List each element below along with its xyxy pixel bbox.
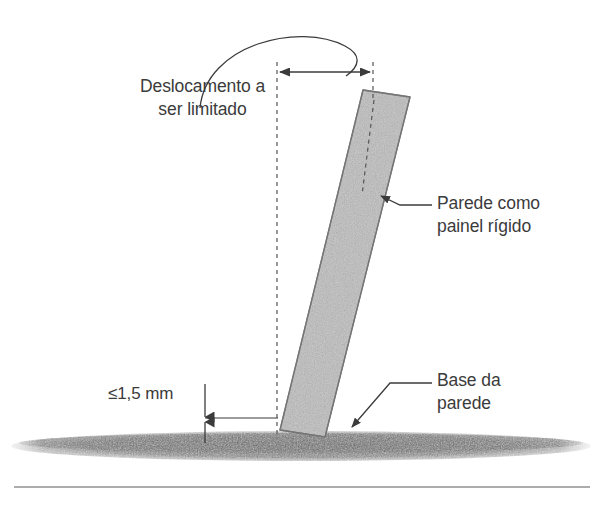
wall-panel (280, 90, 410, 437)
label-displacement: Deslocamento a ser limitado (130, 75, 275, 121)
technical-diagram: Deslocamento a ser limitado Parede como … (0, 0, 602, 507)
wall-panel-leader (381, 196, 432, 205)
label-wall-base: Base da parede (437, 369, 577, 415)
diagram-canvas (0, 0, 602, 507)
label-gap-measurement: ≤1,5 mm (108, 383, 203, 405)
label-wall-panel: Parede como painel rígido (437, 192, 587, 238)
wall-base-leader (352, 383, 432, 427)
